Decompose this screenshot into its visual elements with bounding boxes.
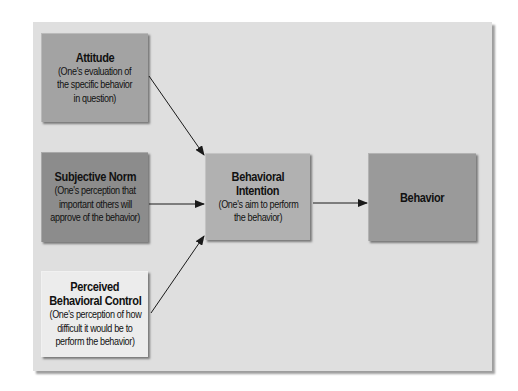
node-attitude: Attitude (One's evaluation of the specif… — [41, 33, 148, 122]
node-subjective-norm: Subjective Norm (One's perception that i… — [41, 152, 148, 242]
node-desc-line: (One's aim to perform — [218, 198, 298, 212]
node-perceived-behavioral-control: Perceived Behavioral Control (One's perc… — [41, 271, 148, 357]
node-desc-line: the behavior) — [234, 211, 282, 225]
node-desc-line: the specific behavior — [57, 78, 132, 92]
node-desc-line: approve of the behavior) — [50, 211, 140, 225]
node-desc-line: (One's perception of how — [49, 308, 141, 322]
node-desc-line: (One's evaluation of — [58, 65, 131, 79]
node-title-line: Perceived — [71, 280, 120, 294]
node-title-line: Behavioral Control — [49, 294, 141, 308]
node-title-line: Behavioral — [232, 170, 285, 184]
node-desc-line: in question) — [74, 92, 117, 106]
node-desc-line: difficult it would be to — [57, 322, 132, 336]
node-behavior: Behavior — [368, 153, 476, 241]
node-title-line: Intention — [236, 184, 279, 198]
node-desc-line: important others will — [58, 198, 131, 212]
node-desc-line: (One's perception that — [54, 184, 135, 198]
node-title: Subjective Norm — [54, 170, 136, 184]
node-behavioral-intention: Behavioral Intention (One's aim to perfo… — [205, 153, 310, 240]
node-title: Behavior — [400, 191, 444, 205]
node-desc-line: perform the behavior) — [55, 335, 134, 349]
node-title: Attitude — [76, 51, 115, 65]
